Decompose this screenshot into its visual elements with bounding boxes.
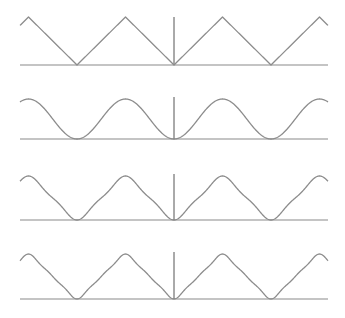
panel-triangle-wave [20,17,328,65]
panel-fourier-3-terms [20,252,328,299]
panel-fourier-2-terms [20,174,328,220]
panel-fourier-1-term [20,97,328,139]
fourier-triangle-diagram [0,0,345,318]
